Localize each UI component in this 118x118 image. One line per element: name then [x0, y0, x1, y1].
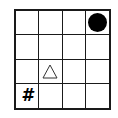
cell-r0-c2	[63, 11, 86, 35]
cell-r1-c0	[16, 35, 39, 59]
cell-r0-c1	[39, 11, 62, 35]
cell-r0-c0	[16, 11, 39, 35]
cell-r2-c2	[63, 60, 86, 84]
cell-r1-c1	[39, 35, 62, 59]
cell-r0-c3	[86, 11, 109, 35]
filled-circle-icon	[88, 13, 107, 32]
triangle-outline-icon	[42, 64, 58, 79]
hash-icon: #	[21, 87, 33, 104]
cell-r3-c0: #	[16, 84, 39, 108]
cell-r2-c1	[39, 60, 62, 84]
cell-r2-c3	[86, 60, 109, 84]
cell-r3-c3	[86, 84, 109, 108]
cell-r3-c2	[63, 84, 86, 108]
cell-r1-c2	[63, 35, 86, 59]
cell-r3-c1	[39, 84, 62, 108]
cell-r1-c3	[86, 35, 109, 59]
grid-board: #	[14, 9, 111, 110]
cell-r2-c0	[16, 60, 39, 84]
